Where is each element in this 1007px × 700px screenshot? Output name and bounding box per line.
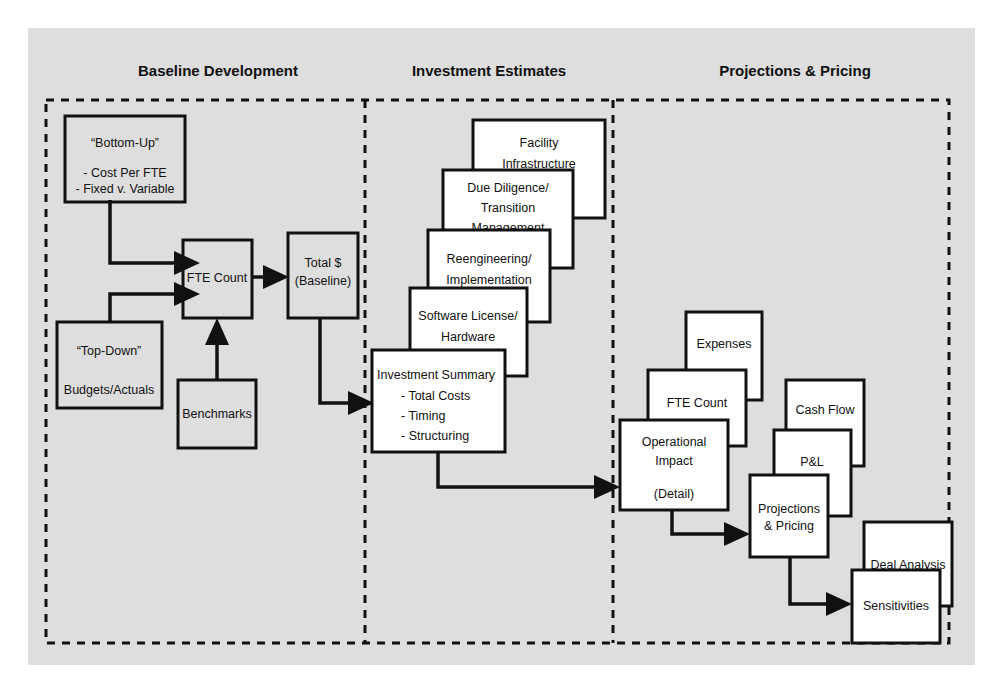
node-pnl-label: P&L [800, 455, 824, 469]
connector-investment-summary-to-operational-impact [438, 452, 620, 499]
node-fte-count-baseline[interactable]: FTE Count [183, 240, 252, 318]
node-due-diligence-line2: Transition [481, 201, 535, 215]
node-facility-infrastructure-line1: Facility [520, 136, 560, 150]
connector-fte-to-total [252, 265, 289, 289]
node-bottom-up[interactable]: “Bottom-Up” - Cost Per FTE - Fixed v. Va… [65, 116, 185, 202]
node-top-down-title: “Top-Down” [77, 344, 142, 358]
node-sensitivities-label: Sensitivities [863, 599, 929, 613]
node-cash-flow-label: Cash Flow [795, 403, 855, 417]
node-operational-impact-line2: Impact [655, 454, 693, 468]
node-investment-summary[interactable]: Investment Summary - Total Costs - Timin… [372, 350, 505, 452]
node-investment-summary-bullet-1: - Total Costs [401, 389, 470, 403]
node-expenses-label: Expenses [697, 337, 752, 351]
node-benchmarks-label: Benchmarks [182, 407, 251, 421]
connector-operational-impact-to-projections [672, 510, 750, 546]
node-investment-summary-title: Investment Summary [377, 368, 496, 382]
connector-projections-to-sensitivities [790, 557, 852, 616]
section-title-baseline: Baseline Development [138, 62, 298, 79]
node-fte-count-projections-label: FTE Count [667, 396, 728, 410]
node-due-diligence-line1: Due Diligence/ [467, 181, 549, 195]
node-fte-count-baseline-label: FTE Count [187, 271, 248, 285]
connector-bottomup-to-fte [110, 200, 200, 275]
diagram-svg: Baseline Development Investment Estimate… [0, 0, 1007, 700]
section-title-projections: Projections & Pricing [719, 62, 871, 79]
node-operational-impact-line1: Operational [642, 435, 707, 449]
node-projections-pricing-line1: Projections [758, 502, 820, 516]
node-reengineering-line1: Reengineering/ [447, 252, 532, 266]
node-total-baseline-line1: Total $ [305, 256, 342, 270]
node-total-baseline-line2: (Baseline) [295, 274, 351, 288]
node-operational-impact[interactable]: Operational Impact (Detail) [620, 420, 728, 510]
node-top-down-subtitle: Budgets/Actuals [64, 383, 154, 397]
node-software-license-line1: Software License/ [418, 309, 518, 323]
node-benchmarks[interactable]: Benchmarks [178, 380, 256, 448]
connector-topdown-to-fte [110, 282, 200, 322]
node-sensitivities[interactable]: Sensitivities [852, 570, 940, 643]
connector-benchmarks-to-fte [205, 318, 229, 380]
diagram-root: Baseline Development Investment Estimate… [0, 0, 1007, 700]
node-software-license-line2: Hardware [441, 330, 495, 344]
section-title-investment: Investment Estimates [412, 62, 566, 79]
node-bottom-up-bullet-2: - Fixed v. Variable [76, 182, 175, 196]
node-bottom-up-title: “Bottom-Up” [91, 136, 159, 150]
node-investment-summary-bullet-3: - Structuring [401, 429, 469, 443]
node-projections-pricing-line2: & Pricing [764, 519, 814, 533]
node-bottom-up-bullet-1: - Cost Per FTE [83, 166, 166, 180]
node-reengineering-line2: Implementation [446, 273, 532, 287]
node-top-down[interactable]: “Top-Down” Budgets/Actuals [57, 322, 162, 408]
node-operational-impact-line3: (Detail) [654, 487, 694, 501]
node-projections-pricing[interactable]: Projections & Pricing [750, 475, 828, 557]
node-total-baseline[interactable]: Total $ (Baseline) [288, 233, 358, 318]
node-investment-summary-bullet-2: - Timing [401, 409, 446, 423]
